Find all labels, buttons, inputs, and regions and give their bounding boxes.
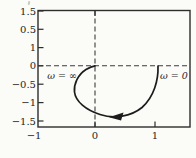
y-tick-label-1: 0.5 <box>20 24 36 35</box>
y-tick-label-3: 0 <box>30 60 36 71</box>
nyquist-plot-canvas: 1.5 0.5 1 0 −0.5 −1 −1.5 −1 0 1 ω = ∞ ω … <box>0 0 196 158</box>
nyquist-plot-figure: 1.5 0.5 1 0 −0.5 −1 −1.5 −1 0 1 ω = ∞ ω … <box>0 0 196 158</box>
nyquist-curve <box>74 66 158 117</box>
y-tick-label-4: −0.5 <box>12 79 36 90</box>
x-tick-label-0: −1 <box>27 130 42 141</box>
x-axis-ticks <box>95 11 155 128</box>
y-tick-label-0: 1.5 <box>20 6 36 17</box>
y-tick-label-6: −1.5 <box>12 116 36 127</box>
x-tick-label-1: 0 <box>92 130 98 141</box>
scan-artifact <box>28 1 31 5</box>
y-tick-label-2: 1 <box>30 42 36 53</box>
omega-infinity-label: ω = ∞ <box>47 70 77 81</box>
direction-arrow <box>109 113 124 121</box>
x-tick-label-2: 1 <box>152 130 158 141</box>
omega-zero-label: ω = 0 <box>160 70 188 81</box>
y-tick-label-5: −1 <box>21 97 36 108</box>
y-axis-ticks <box>38 11 44 121</box>
